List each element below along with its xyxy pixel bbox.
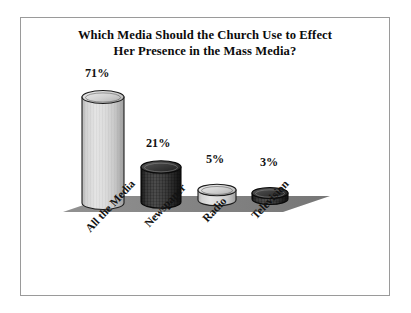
value-label-radio: 5% [206,152,224,167]
value-label-all-the-media: 71% [85,66,109,81]
chart-figure: Which Media Should the Church Use to Eff… [0,0,411,313]
value-label-newspaper: 21% [146,136,170,151]
value-label-television: 3% [260,155,278,170]
